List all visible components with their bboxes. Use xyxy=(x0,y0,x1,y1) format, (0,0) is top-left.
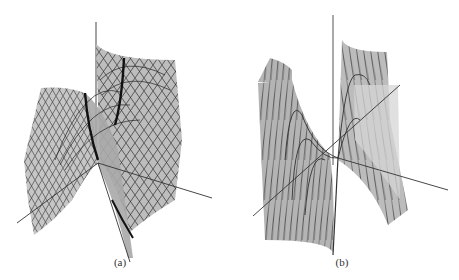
surface-left-sheet xyxy=(258,80,334,252)
figure-panel-b: (b) xyxy=(230,0,459,280)
caption-a: (a) xyxy=(100,256,140,268)
surface-plot-a xyxy=(0,0,229,280)
figure-panel-a: (a) xyxy=(0,0,229,280)
surface-left-back-fold xyxy=(258,58,292,82)
caption-b: (b) xyxy=(322,256,362,268)
z-axis-lower xyxy=(333,158,338,255)
surface-plot-b xyxy=(230,0,459,280)
